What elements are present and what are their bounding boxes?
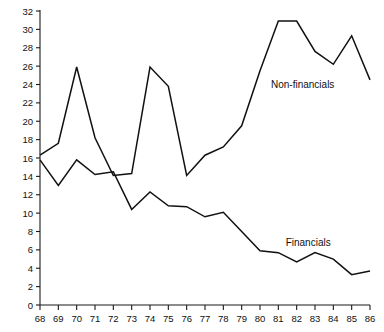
y-tick-label: 18 xyxy=(22,134,33,145)
x-tick-label: 75 xyxy=(163,313,174,324)
chart-canvas: 02468101214161820222426283032 6869707172… xyxy=(0,0,384,332)
y-tick-label: 26 xyxy=(22,61,33,72)
y-tick-label: 12 xyxy=(22,189,33,200)
x-tick-label: 85 xyxy=(346,313,357,324)
series-line-financials xyxy=(40,160,370,275)
y-tick-label: 24 xyxy=(22,79,33,90)
x-tick-label: 71 xyxy=(90,313,101,324)
y-tick-label: 22 xyxy=(22,97,33,108)
x-tick-label: 80 xyxy=(255,313,266,324)
x-tick-label: 78 xyxy=(218,313,229,324)
x-tick-label: 70 xyxy=(71,313,82,324)
x-axis-ticks: 68697071727374757677787980818283848586 xyxy=(35,305,376,324)
x-tick-label: 83 xyxy=(310,313,321,324)
y-tick-label: 30 xyxy=(22,24,33,35)
y-tick-label: 14 xyxy=(22,171,33,182)
x-tick-label: 79 xyxy=(236,313,247,324)
y-tick-label: 10 xyxy=(22,208,33,219)
x-tick-label: 86 xyxy=(365,313,376,324)
x-tick-label: 81 xyxy=(273,313,284,324)
y-tick-label: 32 xyxy=(22,6,33,17)
x-tick-label: 68 xyxy=(35,313,46,324)
y-tick-label: 8 xyxy=(28,226,33,237)
x-tick-label: 77 xyxy=(200,313,211,324)
x-tick-label: 84 xyxy=(328,313,339,324)
y-tick-label: 4 xyxy=(28,263,33,274)
y-tick-label: 0 xyxy=(28,300,33,311)
x-tick-label: 74 xyxy=(145,313,156,324)
y-tick-label: 2 xyxy=(28,281,33,292)
series-line-non-financials xyxy=(40,21,370,175)
line-chart: 02468101214161820222426283032 6869707172… xyxy=(0,0,384,332)
series-label-group: Non-financialsFinancials xyxy=(271,79,334,248)
y-tick-label: 28 xyxy=(22,42,33,53)
y-tick-label: 6 xyxy=(28,244,33,255)
y-tick-label: 20 xyxy=(22,116,33,127)
y-axis-ticks: 02468101214161820222426283032 xyxy=(22,6,40,311)
x-tick-label: 69 xyxy=(53,313,64,324)
y-tick-label: 16 xyxy=(22,153,33,164)
series-label-financials: Financials xyxy=(286,237,331,248)
series-label-non-financials: Non-financials xyxy=(271,79,334,90)
x-tick-label: 82 xyxy=(291,313,302,324)
x-tick-label: 73 xyxy=(126,313,137,324)
x-tick-label: 72 xyxy=(108,313,119,324)
x-tick-label: 76 xyxy=(181,313,192,324)
